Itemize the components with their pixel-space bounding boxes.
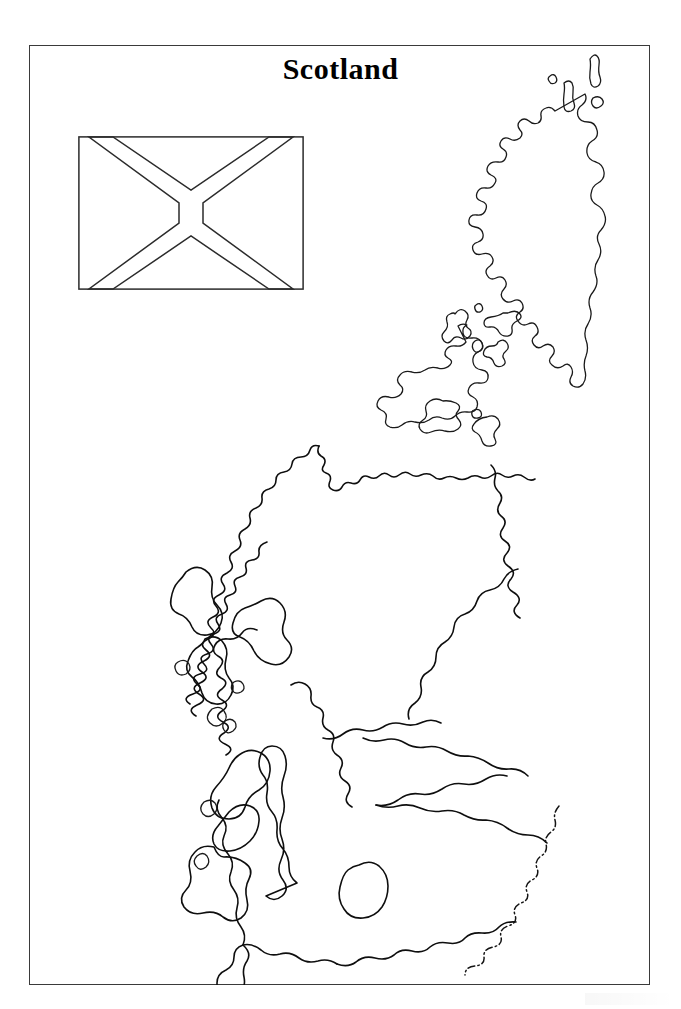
orkney-islands [377, 304, 521, 446]
scotland-mainland-coastline [171, 446, 559, 986]
map-of-scotland [29, 45, 650, 985]
shetland-islands [469, 55, 606, 387]
scan-artifact [585, 993, 675, 1005]
worksheet-page: Scotland [0, 0, 681, 1009]
